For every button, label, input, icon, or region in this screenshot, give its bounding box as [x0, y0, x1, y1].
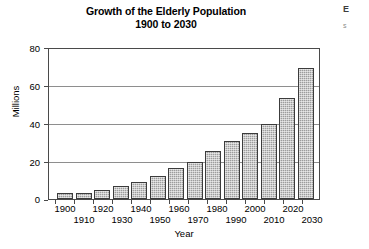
bar-slot-1910: [75, 49, 94, 199]
edge-bleed-text: E s: [343, 4, 367, 31]
bar-2020: [279, 98, 295, 199]
chart-title-block: Growth of the Elderly Population 1900 to…: [0, 5, 332, 31]
y-tick-label-20: 20: [14, 158, 40, 167]
x-tick-label-1930: 1930: [105, 214, 139, 225]
edge-bleed-line-2: s: [343, 20, 367, 31]
bar-slot-1960: [167, 49, 186, 199]
bar-1930: [113, 186, 129, 199]
y-tick-label-80: 80: [14, 44, 40, 53]
bar-slot-1950: [149, 49, 168, 199]
bar-2010: [261, 124, 277, 199]
bar-slot-1970: [186, 49, 205, 199]
bar-1970: [187, 162, 203, 200]
x-tick-label-1980: 1980: [200, 203, 234, 214]
x-tick-label-1920: 1920: [86, 203, 120, 214]
x-tick-label-1910: 1910: [67, 214, 101, 225]
chart-subtitle: 1900 to 2030: [0, 18, 332, 31]
bar-slot-2000: [241, 49, 260, 199]
x-tick-label-1990: 1990: [219, 214, 253, 225]
x-tick-label-2010: 2010: [257, 214, 291, 225]
x-tick-label-1970: 1970: [181, 214, 215, 225]
edge-bleed-line-1: E: [343, 4, 367, 15]
chart-page: Growth of the Elderly Population 1900 to…: [0, 0, 369, 249]
bar-2030: [298, 68, 314, 199]
bar-slot-2030: [297, 49, 316, 199]
x-tick-label-2030: 2030: [295, 214, 329, 225]
bar-2000: [242, 133, 258, 199]
x-tick-label-2020: 2020: [276, 203, 310, 214]
y-tick-label-0: 0: [14, 195, 40, 204]
bar-slot-1920: [93, 49, 112, 199]
y-axis-title: Millions: [10, 67, 21, 137]
bar-slot-2010: [260, 49, 279, 199]
bar-slot-1900: [56, 49, 75, 199]
x-tick-label-1960: 1960: [162, 203, 196, 214]
bar-1900: [57, 193, 73, 199]
bar-1980: [205, 151, 221, 199]
bar-1920: [94, 190, 110, 199]
bar-slot-1930: [112, 49, 131, 199]
x-axis-title: Year: [48, 228, 320, 239]
x-tick-label-1940: 1940: [124, 203, 158, 214]
x-tick-label-2000: 2000: [238, 203, 272, 214]
plot-area: [48, 48, 320, 200]
bar-series: [49, 49, 319, 199]
page-title: Growth of the Elderly Population: [0, 5, 332, 18]
x-tick-labels: 1900 1910 1920 1930 1940 1950 1960 1970 …: [48, 203, 320, 229]
bar-slot-1990: [223, 49, 242, 199]
bar-slot-2020: [278, 49, 297, 199]
bar-1940: [131, 182, 147, 199]
x-tick-label-1900: 1900: [48, 203, 82, 214]
x-tick-label-1950: 1950: [143, 214, 177, 225]
bar-slot-1980: [204, 49, 223, 199]
bar-1950: [150, 176, 166, 199]
bar-1910: [76, 193, 92, 199]
bar-1960: [168, 168, 184, 199]
bar-slot-1940: [130, 49, 149, 199]
bar-1990: [224, 141, 240, 200]
